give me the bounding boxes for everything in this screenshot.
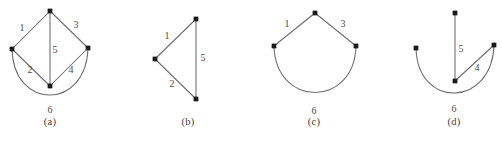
vertex-d-top [453,11,457,15]
edge-label-a-3: 3 [74,19,79,30]
edge-label-d-4: 4 [475,62,480,73]
vertex-b-left [153,57,157,61]
vertex-a-right [86,46,90,50]
edge-label-c-6: 6 [312,105,317,116]
vertex-a-bottom [48,84,52,88]
edge-label-c-3: 3 [341,18,346,29]
edge-labels-layer: 135246125136546 [20,18,480,116]
vertex-c-top [313,11,317,15]
edge-label-a-5: 5 [53,44,58,55]
vertex-a-left [10,47,14,51]
vertex-b-bottom [194,97,198,101]
edge-label-a-4: 4 [69,64,74,75]
edge-label-b-1: 1 [165,30,170,41]
edge-c-6 [274,46,356,93]
edge-label-d-5: 5 [459,43,464,54]
edge-a-3 [50,11,88,48]
vertex-d-right [492,43,496,47]
edge-label-a-2: 2 [28,64,33,75]
vertex-c-left [272,44,276,48]
edge-c-1 [274,13,315,46]
caption-c: (c) [308,116,321,128]
edge-c-3 [315,13,356,46]
edge-label-a-6: 6 [48,104,53,115]
vertex-c-right [354,44,358,48]
edge-label-b-5: 5 [201,52,206,63]
edge-label-d-6: 6 [452,103,457,114]
edge-b-1 [155,19,196,59]
vertex-a-top [48,9,52,13]
vertex-d-center [453,79,457,83]
graph-diagram-svg: 135246125136546 (a)(b)(c)(d) [0,0,503,143]
vertices-layer [10,9,496,101]
edge-b-2 [155,59,196,99]
vertex-d-left [414,46,418,50]
captions-layer: (a)(b)(c)(d) [44,116,461,128]
edge-a-1 [12,11,50,49]
edge-label-b-2: 2 [170,78,175,89]
graph-figure-panel: 135246125136546 (a)(b)(c)(d) [0,0,503,143]
edge-label-c-1: 1 [285,18,290,29]
caption-b: (b) [181,116,194,128]
caption-a: (a) [44,116,57,128]
caption-d: (d) [447,116,460,128]
vertex-b-top [194,17,198,21]
edges-layer [12,11,494,99]
edge-label-a-1: 1 [20,22,25,33]
